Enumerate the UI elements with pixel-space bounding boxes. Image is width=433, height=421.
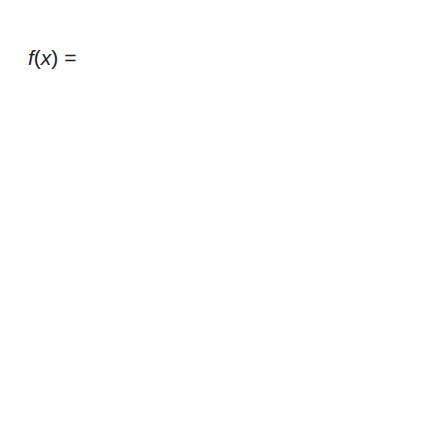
function-label-line1: f(x) = <box>26 47 78 68</box>
